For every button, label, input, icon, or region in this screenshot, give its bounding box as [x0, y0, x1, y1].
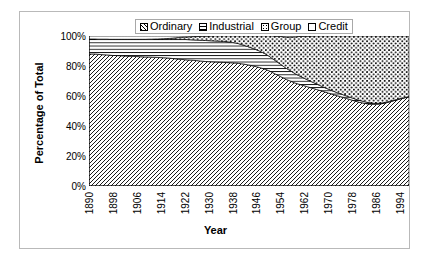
x-axis-tick-label: 1954	[275, 192, 286, 214]
x-axis-tick-label: 1978	[347, 192, 358, 214]
legend-item-ordinary: Ordinary	[140, 21, 192, 32]
plot-area	[89, 36, 409, 186]
x-axis-tick-labels: 1890189819061914192219301938194619541962…	[89, 190, 409, 226]
y-axis-tick-label: 40%	[66, 121, 86, 132]
y-axis-tick-label: 0%	[72, 181, 86, 192]
x-axis-tick-label: 1962	[299, 192, 310, 214]
blank-white-swatch-icon	[308, 23, 316, 31]
x-axis-tick-label: 1906	[132, 192, 143, 214]
x-axis-title: Year	[20, 224, 411, 236]
diagonal-hatch-swatch-icon	[140, 23, 148, 31]
y-axis-tick-label: 100%	[60, 31, 86, 42]
horizontal-lines-swatch-icon	[199, 23, 207, 31]
legend-label-ordinary: Ordinary	[150, 21, 192, 32]
x-axis-tick-label: 1946	[251, 192, 262, 214]
x-axis-tick-label: 1994	[395, 192, 406, 214]
x-axis-tick-label: 1914	[156, 192, 167, 214]
x-axis-tick-label: 1890	[84, 192, 95, 214]
legend-item-industrial: Industrial	[199, 21, 254, 32]
legend-label-industrial: Industrial	[209, 21, 254, 32]
x-axis-tick-label: 1986	[371, 192, 382, 214]
y-axis-tick-labels: 100%80%60%40%20%0%	[44, 30, 86, 192]
x-axis-tick-label: 1898	[108, 192, 119, 214]
x-axis-tick-label: 1970	[323, 192, 334, 214]
legend-item-credit: Credit	[308, 21, 347, 32]
y-axis-tick-label: 80%	[66, 61, 86, 72]
y-axis-tick-label: 20%	[66, 151, 86, 162]
legend-label-group: Group	[271, 21, 302, 32]
y-axis-tick-label: 60%	[66, 91, 86, 102]
x-axis-tick-label: 1930	[204, 192, 215, 214]
legend-label-credit: Credit	[318, 21, 347, 32]
chart-container: Ordinary Industrial Group Credit Percent…	[19, 11, 410, 249]
x-axis-tick-label: 1938	[228, 192, 239, 214]
x-axis-tick-label: 1922	[180, 192, 191, 214]
chart-legend: Ordinary Industrial Group Credit	[135, 19, 353, 34]
checkered-dots-swatch-icon	[261, 23, 269, 31]
legend-item-group: Group	[261, 21, 302, 32]
